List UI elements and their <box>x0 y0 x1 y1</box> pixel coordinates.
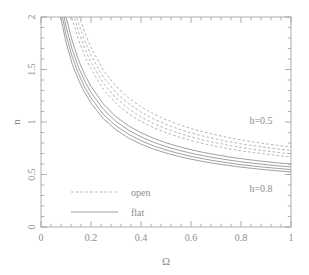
annotation-label: h=0.5 <box>249 115 272 126</box>
y-tick-label: 2 <box>26 15 37 20</box>
legend-label-open: open <box>131 187 150 198</box>
x-tick-label: 1 <box>289 232 294 243</box>
curve-open-h0.7 <box>54 0 292 154</box>
x-tick-label: 0.8 <box>235 232 248 243</box>
x-tick-label: 0 <box>39 232 44 243</box>
legend: open flat <box>71 187 150 218</box>
legend-label-flat: flat <box>131 207 145 218</box>
annotation-label: h=0.8 <box>249 183 272 194</box>
y-tick-label: 1 <box>26 120 37 125</box>
x-tick-label: 0.6 <box>185 232 198 243</box>
y-tick-label: 0.5 <box>26 168 37 181</box>
curve-flat-h0.5 <box>54 0 292 164</box>
line-chart: 00.20.40.60.81 00.511.52 Ω n h=0.5h=0.8 … <box>0 0 309 275</box>
curve-flat-h0.7 <box>54 0 292 170</box>
x-axis-minor-ticks <box>51 17 281 227</box>
x-tick-label: 0.2 <box>85 232 98 243</box>
x-axis-title: Ω <box>162 255 170 267</box>
y-tick-label: 1.5 <box>26 63 37 76</box>
y-axis-title: n <box>10 119 22 125</box>
data-curves <box>54 0 292 172</box>
figure-container: 00.20.40.60.81 00.511.52 Ω n h=0.5h=0.8 … <box>0 0 309 275</box>
curve-open-h0.6 <box>54 0 292 150</box>
curve-open-h0.8 <box>54 0 292 157</box>
y-axis-tick-labels: 00.511.52 <box>26 15 37 230</box>
x-axis-tick-labels: 00.20.40.60.81 <box>39 232 294 243</box>
y-tick-label: 0 <box>26 225 37 230</box>
x-tick-label: 0.4 <box>135 232 148 243</box>
